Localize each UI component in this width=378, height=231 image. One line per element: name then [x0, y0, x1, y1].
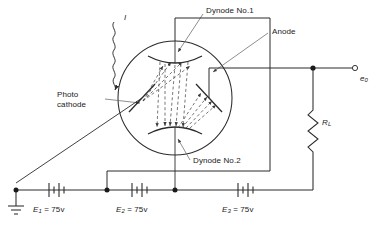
output-subscript: 0 — [365, 77, 368, 83]
wire-dynode1-to-battery2 — [107, 18, 270, 190]
anode-label: Anode — [272, 27, 296, 37]
figure-canvas: I Dynode No.1 Anode Photo cathode Dynode… — [0, 0, 378, 231]
battery-E1-equals: = — [42, 205, 51, 214]
battery-E3-equals: = — [231, 205, 240, 214]
junction-E1-E2 — [105, 188, 110, 193]
battery-E2-unit: v — [143, 205, 147, 214]
battery-E3-label: E3 = 75v — [222, 205, 254, 215]
battery-E1-unit: v — [60, 205, 64, 214]
load-resistor-label: RL — [322, 118, 331, 128]
junction-ground — [14, 188, 19, 193]
photocathode-label: Photo cathode — [57, 90, 86, 110]
light-ray-wave — [113, 22, 116, 90]
junction-E2-E3 — [173, 188, 178, 193]
dynode-1-label: Dynode No.1 — [206, 6, 254, 16]
battery-E3-unit: v — [249, 205, 253, 214]
circuit-schematic-svg — [0, 0, 378, 231]
leader-anode — [213, 33, 268, 72]
load-resistor-symbol — [308, 68, 318, 190]
ground-symbol — [8, 190, 24, 214]
electron-paths-dynode1-to-dynode2 — [157, 62, 188, 127]
electron-paths-cathode-to-dynode1 — [143, 62, 190, 101]
dynode-2-label: Dynode No.2 — [193, 156, 241, 166]
battery-E2-label: E2 = 75v — [116, 205, 148, 215]
battery-E2-equals: = — [125, 205, 134, 214]
photocathode-lead — [16, 98, 142, 183]
leader-dynode2 — [178, 139, 190, 160]
output-terminal — [352, 65, 357, 70]
light-input-label: I — [124, 13, 126, 23]
battery-E1-label: E1 = 75v — [33, 205, 65, 215]
photocathode-label-line2: cathode — [57, 100, 86, 109]
output-label: e0 — [360, 74, 368, 84]
photocathode-label-line1: Photo — [57, 90, 78, 99]
junction-anode-RL — [310, 65, 315, 70]
load-resistor-subscript: L — [328, 121, 331, 127]
